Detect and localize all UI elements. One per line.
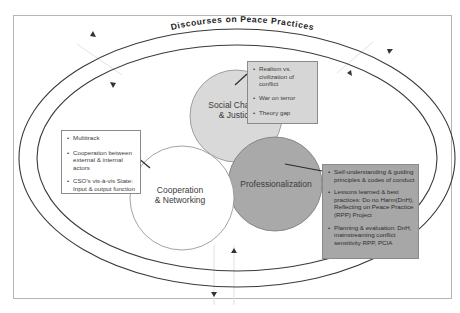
professionalization-label: Professionalization: [228, 179, 324, 189]
arrow-bottom-inward-icon: [231, 248, 237, 253]
arrow-bottom-outward-icon: [211, 292, 217, 297]
professionalization-label-text: Professionalization: [228, 179, 324, 189]
arrow-top-right-inward-icon: [347, 70, 352, 76]
diagram-title: Discourses on Peace Practices: [170, 14, 315, 32]
professionalization-item: Planning & evaluation: DnH, mainstreamin…: [328, 224, 415, 247]
social-change-box: Realism vs. civilization of conflict War…: [247, 61, 318, 124]
arrow-top-left-outward-icon: [90, 31, 96, 37]
cooperation-box: Multitrack Cooperation between external …: [61, 130, 141, 194]
cooperation-item: Multitrack: [67, 134, 137, 142]
cooperation-label-line1: Cooperation: [140, 185, 220, 195]
arrow-top-left-inward-icon: [110, 82, 116, 88]
professionalization-box: Self-understanding & guiding principles …: [322, 164, 419, 259]
professionalization-item: Self-understanding & guiding principles …: [328, 168, 415, 183]
social-change-item: War on terror: [253, 94, 314, 102]
social-change-item: Realism vs. civilization of conflict: [253, 65, 314, 88]
cooperation-label: Cooperation & Networking: [140, 185, 220, 205]
cooperation-label-line2: & Networking: [140, 195, 220, 205]
professionalization-item: Lessons learned & best practices: Do no …: [328, 188, 415, 218]
cooperation-item: CSO's vis-à-vis State: Input & output fu…: [67, 177, 137, 192]
cooperation-item: Cooperation between external & internal …: [67, 149, 137, 172]
social-change-item: Theory gap: [253, 109, 314, 117]
arrow-top-right-outward-icon: [387, 49, 393, 54]
